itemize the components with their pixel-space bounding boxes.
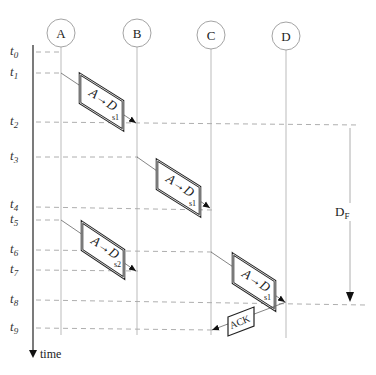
svg-text:t7: t7 — [10, 261, 19, 278]
arrow-down-icon — [29, 350, 37, 358]
svg-text:s1: s1 — [264, 293, 271, 302]
arrow-down-icon — [346, 292, 354, 302]
svg-text:t3: t3 — [10, 148, 19, 165]
sequence-diagram: A B C D time t0 t1 t2 t3 t4 t5 t6 t7 t8 … — [0, 0, 376, 375]
svg-text:t9: t9 — [10, 319, 19, 336]
node-B: B — [123, 19, 151, 47]
svg-text:t2: t2 — [10, 113, 19, 130]
svg-text:t1: t1 — [10, 64, 18, 81]
tick-labels: t0 t1 t2 t3 t4 t5 t6 t7 t8 t9 — [10, 43, 19, 336]
svg-text:t0: t0 — [10, 43, 19, 60]
svg-text:s2: s2 — [114, 260, 121, 269]
svg-text:A: A — [56, 26, 66, 41]
svg-text:s1: s1 — [112, 113, 119, 122]
svg-text:t8: t8 — [10, 291, 19, 308]
node-A: A — [47, 19, 75, 47]
node-D: D — [272, 22, 300, 50]
time-axis: time — [29, 45, 61, 361]
svg-text:time: time — [40, 347, 61, 361]
svg-text:D: D — [281, 29, 290, 44]
node-C: C — [197, 21, 225, 49]
svg-text:B: B — [133, 26, 142, 41]
svg-text:t5: t5 — [10, 211, 19, 228]
message-4: A→D s1 — [211, 252, 285, 310]
svg-text:t6: t6 — [10, 241, 19, 258]
svg-text:s1: s1 — [189, 199, 196, 208]
message-2: A→D s1 — [137, 157, 210, 216]
svg-text:C: C — [207, 28, 216, 43]
delay-df: DF — [335, 128, 363, 302]
message-3: A→D s2 — [61, 220, 136, 278]
message-1: A→D s1 — [61, 73, 136, 130]
